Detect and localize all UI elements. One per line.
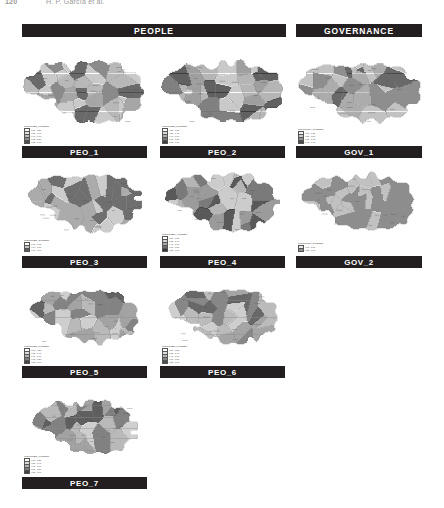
legend-item: 0.51 - 1.00	[298, 249, 323, 252]
map-label-peo7[interactable]: PEO_7	[22, 477, 147, 489]
legend-range-label: 0.81 - 1.00	[31, 471, 41, 474]
section-banner-people-label: PEOPLE	[134, 26, 174, 36]
legend-swatch-icon	[298, 140, 304, 144]
choropleth-map-peo1	[22, 55, 147, 131]
map-panel-peo6[interactable]: Legend PEO_6 indicator0.00 - 0.200.21 - …	[160, 283, 285, 365]
map-panel-peo7[interactable]: Legend PEO_7 indicator0.00 - 0.200.21 - …	[22, 395, 147, 475]
map-label-peo4[interactable]: PEO_4	[160, 256, 285, 268]
map-label-text: PEO_3	[70, 258, 99, 267]
map-label-peo5[interactable]: PEO_5	[22, 366, 147, 378]
legend-swatch-icon	[162, 248, 168, 252]
map-label-gov1[interactable]: GOV_1	[296, 146, 422, 158]
legend-range-label: 0.76 - 1.00	[305, 141, 315, 144]
choropleth-map-peo3	[22, 168, 147, 239]
legend-item: 0.81 - 1.00	[24, 471, 49, 474]
map-legend-peo3: Legend PEO_3 indicator0.00 - 0.330.34 - …	[24, 239, 49, 252]
map-legend-peo4: Legend PEO_4 indicator0.00 - 0.200.21 - …	[162, 233, 187, 252]
legend-item: 0.81 - 1.00	[162, 361, 187, 364]
legend-range-label: 0.81 - 1.00	[169, 141, 179, 144]
legend-swatch-icon	[24, 140, 30, 144]
page-number: 120	[5, 0, 17, 5]
legend-swatch-icon	[24, 360, 30, 364]
map-label-text: PEO_1	[70, 148, 99, 157]
legend-item: 0.67 - 1.00	[24, 249, 49, 252]
map-label-text: PEO_7	[70, 479, 99, 488]
legend-swatch-icon	[298, 248, 304, 252]
map-panel-peo4[interactable]: Legend PEO_4 indicator0.00 - 0.200.21 - …	[160, 168, 285, 253]
legend-item: 0.81 - 1.00	[162, 249, 187, 252]
map-legend-gov1: Legend GOV_1 indicator0.00 - 0.250.26 - …	[298, 128, 323, 144]
map-legend-peo5: Legend PEO_5 indicator0.00 - 0.200.21 - …	[24, 345, 49, 364]
legend-item: 0.81 - 1.00	[24, 141, 49, 144]
choropleth-map-peo5	[22, 283, 147, 351]
map-legend-gov2: Legend GOV_2 indicator0.00 - 0.500.51 - …	[298, 242, 323, 252]
map-label-peo6[interactable]: PEO_6	[160, 366, 285, 378]
map-label-peo1[interactable]: PEO_1	[22, 146, 147, 158]
map-label-text: PEO_2	[208, 148, 237, 157]
map-label-text: GOV_2	[344, 258, 374, 267]
map-panel-gov2[interactable]: Legend GOV_2 indicator0.00 - 0.500.51 - …	[296, 168, 422, 253]
map-panel-gov1[interactable]: Legend GOV_1 indicator0.00 - 0.250.26 - …	[296, 55, 422, 145]
choropleth-map-gov1	[296, 55, 422, 131]
map-label-text: PEO_4	[208, 258, 237, 267]
map-label-gov2[interactable]: GOV_2	[296, 256, 422, 268]
choropleth-map-gov2	[296, 168, 422, 239]
legend-range-label: 0.81 - 1.00	[169, 361, 179, 364]
legend-range-label: 0.81 - 1.00	[31, 141, 41, 144]
running-head-authors: H. P. García et al.	[46, 0, 105, 5]
map-panel-peo5[interactable]: Legend PEO_5 indicator0.00 - 0.200.21 - …	[22, 283, 147, 365]
map-label-text: GOV_1	[344, 148, 374, 157]
legend-item: 0.76 - 1.00	[298, 141, 323, 144]
section-banner-governance: GOVERNANCE	[296, 24, 422, 37]
map-legend-peo1: Legend PEO_1 indicator0.00 - 0.200.21 - …	[24, 125, 49, 144]
map-legend-peo7: Legend PEO_7 indicator0.00 - 0.200.21 - …	[24, 455, 49, 474]
legend-range-label: 0.67 - 1.00	[31, 249, 41, 252]
legend-range-label: 0.81 - 1.00	[31, 361, 41, 364]
choropleth-map-peo6	[160, 283, 285, 351]
map-label-peo3[interactable]: PEO_3	[22, 256, 147, 268]
legend-range-label: 0.51 - 1.00	[305, 249, 315, 252]
legend-range-label: 0.81 - 1.00	[169, 249, 179, 252]
legend-item: 0.81 - 1.00	[162, 141, 187, 144]
map-legend-peo2: Legend PEO_2 indicator0.00 - 0.200.21 - …	[162, 125, 187, 144]
section-banner-people: PEOPLE	[22, 24, 286, 37]
map-panel-peo3[interactable]: Legend PEO_3 indicator0.00 - 0.330.34 - …	[22, 168, 147, 253]
running-head: 120 H. P. García et al.	[0, 0, 444, 9]
section-banner-governance-label: GOVERNANCE	[324, 26, 394, 36]
map-label-peo2[interactable]: PEO_2	[160, 146, 285, 158]
legend-swatch-icon	[24, 248, 30, 252]
choropleth-map-peo4	[160, 168, 285, 239]
map-panel-peo2[interactable]: Legend PEO_2 indicator0.00 - 0.200.21 - …	[160, 55, 285, 145]
map-label-text: PEO_5	[70, 368, 99, 377]
legend-swatch-icon	[24, 470, 30, 474]
legend-swatch-icon	[162, 360, 168, 364]
choropleth-map-peo7	[22, 395, 147, 461]
map-legend-peo6: Legend PEO_6 indicator0.00 - 0.200.21 - …	[162, 345, 187, 364]
map-label-text: PEO_6	[208, 368, 237, 377]
choropleth-map-peo2	[160, 55, 285, 131]
legend-item: 0.81 - 1.00	[24, 361, 49, 364]
legend-swatch-icon	[162, 140, 168, 144]
map-panel-peo1[interactable]: Legend PEO_1 indicator0.00 - 0.200.21 - …	[22, 55, 147, 145]
